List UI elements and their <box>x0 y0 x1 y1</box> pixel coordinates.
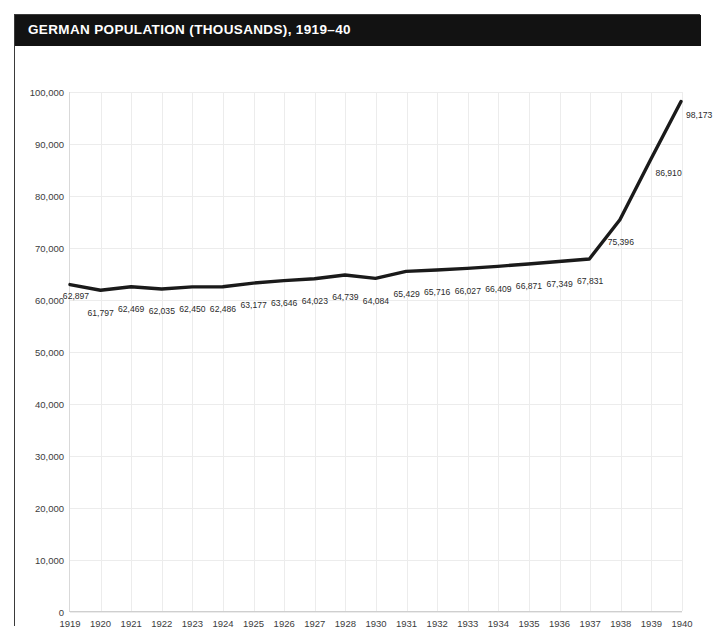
data-point-label: 62,897 <box>63 291 89 301</box>
data-point-label: 66,027 <box>455 286 481 296</box>
data-point-label: 67,349 <box>546 279 572 289</box>
x-axis-tick-label: 1919 <box>59 618 80 629</box>
x-axis-tick-label: 1928 <box>335 618 356 629</box>
y-axis-tick-label: 50,000 <box>35 347 64 358</box>
data-point-label: 75,396 <box>608 237 634 247</box>
y-axis-tick-label: 30,000 <box>35 451 64 462</box>
x-axis-tick-label: 1926 <box>274 618 295 629</box>
plot-frame: 010,00020,00030,00040,00050,00060,00070,… <box>15 46 701 626</box>
data-point-label: 63,177 <box>240 300 266 310</box>
x-axis-tick-label: 1940 <box>671 618 692 629</box>
x-axis-tick-label: 1927 <box>304 618 325 629</box>
x-axis-tick-label: 1937 <box>580 618 601 629</box>
population-line-series <box>70 92 682 611</box>
y-axis-tick-label: 0 <box>59 607 64 618</box>
data-point-label: 62,450 <box>179 304 205 314</box>
data-point-label: 64,023 <box>302 296 328 306</box>
page-title: GERMAN POPULATION (THOUSANDS), 1919–40 <box>28 22 351 37</box>
x-axis-tick-label: 1935 <box>518 618 539 629</box>
x-axis-tick-label: 1938 <box>610 618 631 629</box>
x-axis-tick-label: 1920 <box>90 618 111 629</box>
data-point-label: 98,173 <box>686 110 712 120</box>
gridline-vertical <box>682 92 683 611</box>
chart-figure: GERMAN POPULATION (THOUSANDS), 1919–40 0… <box>14 14 700 626</box>
data-point-label: 64,739 <box>332 292 358 302</box>
data-point-label: 62,469 <box>118 304 144 314</box>
y-axis-tick-label: 70,000 <box>35 243 64 254</box>
x-axis-tick-label: 1939 <box>641 618 662 629</box>
x-axis-tick-label: 1934 <box>488 618 509 629</box>
plot-area: 010,00020,00030,00040,00050,00060,00070,… <box>69 92 682 612</box>
data-point-label: 86,910 <box>655 168 681 178</box>
y-axis-tick-label: 20,000 <box>35 503 64 514</box>
y-axis-tick-label: 100,000 <box>30 87 64 98</box>
x-axis-tick-label: 1930 <box>365 618 386 629</box>
data-point-label: 63,646 <box>271 298 297 308</box>
data-point-label: 66,871 <box>516 281 542 291</box>
y-axis-tick-label: 80,000 <box>35 191 64 202</box>
y-axis-tick-label: 90,000 <box>35 139 64 150</box>
data-point-label: 65,429 <box>393 289 419 299</box>
x-axis-tick-label: 1932 <box>427 618 448 629</box>
data-point-label: 62,486 <box>210 304 236 314</box>
x-axis-tick-label: 1925 <box>243 618 264 629</box>
y-axis-tick-label: 40,000 <box>35 399 64 410</box>
x-axis-tick-label: 1922 <box>151 618 172 629</box>
chart-title-bar: GERMAN POPULATION (THOUSANDS), 1919–40 <box>15 15 701 46</box>
gridline-horizontal <box>70 612 682 613</box>
data-point-label: 65,716 <box>424 287 450 297</box>
data-point-label: 61,797 <box>87 308 113 318</box>
data-point-label: 62,035 <box>149 306 175 316</box>
x-axis-tick-label: 1921 <box>121 618 142 629</box>
x-axis-tick-label: 1923 <box>182 618 203 629</box>
data-point-label: 66,409 <box>485 284 511 294</box>
x-axis-tick-label: 1933 <box>457 618 478 629</box>
data-point-label: 67,831 <box>577 276 603 286</box>
y-axis-tick-label: 60,000 <box>35 295 64 306</box>
x-axis-tick-label: 1936 <box>549 618 570 629</box>
population-polyline <box>70 101 681 290</box>
x-axis-tick-label: 1931 <box>396 618 417 629</box>
y-axis-tick-label: 10,000 <box>35 555 64 566</box>
x-axis-tick-label: 1924 <box>212 618 233 629</box>
data-point-label: 64,084 <box>363 296 389 306</box>
